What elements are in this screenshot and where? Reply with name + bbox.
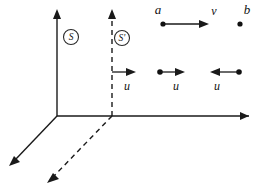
vector-u-frame-group: u	[112, 68, 136, 93]
vector-u-frame-arrowhead-icon	[126, 68, 136, 76]
vector-u-reversed-arrowhead-icon	[210, 68, 220, 76]
y-axis-S-arrowhead-icon	[53, 9, 61, 19]
x-axis-arrowhead-icon	[240, 112, 249, 120]
vector-u-frame-label: u	[124, 79, 130, 93]
physics-diagram-figure: S S' a v b u u	[0, 0, 258, 190]
point-b-dot	[237, 21, 242, 26]
diagram-canvas: S S' a v b u u	[0, 0, 258, 190]
z-axis-S-prime-arrowhead-icon	[47, 173, 59, 183]
frame-S-prime-label: S'	[119, 33, 127, 43]
vector-v-group: a v b	[155, 2, 251, 28]
vector-u-reversed-group: u	[210, 68, 242, 93]
vector-u-reversed-label: u	[214, 79, 220, 93]
vector-u-middle-group: u	[157, 68, 185, 93]
vector-u-middle-label: u	[173, 79, 179, 93]
z-axis-S-line	[15, 116, 57, 160]
z-axis-S-prime-line	[54, 116, 112, 176]
y-axis-S-prime-arrowhead-icon	[108, 9, 116, 19]
frame-S-label: S	[69, 32, 74, 42]
frame-label-S: S	[64, 30, 79, 45]
frame-label-S-prime: S'	[115, 31, 130, 46]
point-b-label: b	[244, 2, 251, 17]
vector-u-middle-arrowhead-icon	[175, 68, 185, 76]
vector-v-label: v	[211, 4, 217, 18]
vector-v-arrowhead-icon	[199, 20, 209, 28]
point-a-label: a	[155, 2, 162, 17]
point-a-dot	[160, 21, 165, 26]
